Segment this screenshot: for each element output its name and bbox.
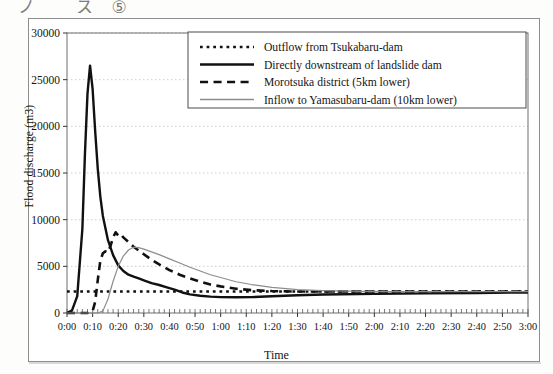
x-tick-label: 1:10 xyxy=(237,321,255,332)
japanese-caption-fragment: ノ ス⑤ xyxy=(18,0,168,13)
x-tick-label: 1:40 xyxy=(314,321,332,332)
legend-label-3: Inflow to Yamasubaru-dam (10km lower) xyxy=(264,94,457,107)
y-tick-label: 20000 xyxy=(31,120,60,132)
legend-label-2: Morotsuka district (5km lower) xyxy=(264,76,410,89)
series-line-2 xyxy=(67,232,528,313)
y-tick-label: 25000 xyxy=(31,74,60,86)
legend-label-0: Outflow from Tsukabaru-dam xyxy=(264,41,403,54)
x-tick-label: 0:50 xyxy=(186,321,204,332)
flood-discharge-chart: 0500010000150002000025000300000:000:100:… xyxy=(28,18,540,362)
x-tick-label: 3:00 xyxy=(519,321,537,332)
x-axis-label: Time xyxy=(0,348,553,363)
x-tick-label: 2:10 xyxy=(391,321,409,332)
series-line-3 xyxy=(67,247,528,313)
x-tick-label: 0:00 xyxy=(58,321,76,332)
x-tick-label: 1:50 xyxy=(339,321,357,332)
x-tick-label: 2:20 xyxy=(416,321,434,332)
x-tick-label: 2:30 xyxy=(442,321,460,332)
x-tick-label: 0:30 xyxy=(135,321,153,332)
x-tick-label: 2:40 xyxy=(468,321,486,332)
y-tick-label: 0 xyxy=(54,307,60,319)
y-tick-label: 10000 xyxy=(31,214,60,226)
x-tick-label: 0:10 xyxy=(83,321,101,332)
figure-page: ノ ス⑤ 0500010000150002000025000300000:000… xyxy=(0,0,553,374)
x-tick-label: 0:40 xyxy=(160,321,178,332)
x-tick-label: 1:30 xyxy=(288,321,306,332)
y-tick-label: 30000 xyxy=(31,27,60,39)
x-tick-label: 2:00 xyxy=(365,321,383,332)
y-tick-label: 15000 xyxy=(31,167,60,179)
legend-label-1: Directly downstream of landslide dam xyxy=(264,59,442,72)
x-tick-label: 1:20 xyxy=(263,321,281,332)
x-tick-label: 0:20 xyxy=(109,321,127,332)
y-tick-label: 5000 xyxy=(37,260,60,272)
y-axis-label: Flood discharge (m3) xyxy=(23,81,35,231)
x-tick-label: 2:50 xyxy=(493,321,511,332)
x-tick-label: 1:00 xyxy=(211,321,229,332)
